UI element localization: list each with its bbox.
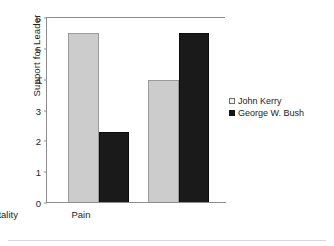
bar-chart-figure: Support for Leader 0 1 2 3 4 5 6 Pain Mo… — [0, 0, 334, 246]
x-axis-line — [46, 202, 226, 203]
y-tick-label-0: 0 — [36, 198, 41, 209]
y-tick-label-3: 3 — [36, 105, 41, 116]
bar-pain-george-w-bush[interactable] — [99, 132, 129, 203]
plot-area: 0 1 2 3 4 5 6 — [46, 17, 225, 203]
legend-label-john-kerry: John Kerry — [238, 96, 282, 106]
bar-group-mortality — [148, 18, 209, 203]
legend-swatch-icon-john-kerry — [229, 98, 235, 104]
legend-label-george-w-bush: George W. Bush — [238, 108, 304, 118]
y-tick-label-6: 6 — [36, 13, 41, 24]
y-tick-label-2: 2 — [36, 136, 41, 147]
legend: John Kerry George W. Bush — [229, 95, 304, 119]
y-tick-label-1: 1 — [36, 167, 41, 178]
legend-item-george-w-bush[interactable]: George W. Bush — [229, 107, 304, 119]
bar-pain-john-kerry[interactable] — [68, 33, 98, 203]
x-tick-label-pain: Pain — [71, 209, 90, 220]
y-tick-label-5: 5 — [36, 43, 41, 54]
bar-group-pain — [68, 18, 129, 203]
legend-swatch-icon-george-w-bush — [229, 110, 235, 116]
x-tick-label-mortality: Mortality — [0, 209, 18, 220]
bar-mortality-george-w-bush[interactable] — [179, 33, 209, 203]
page-divider — [8, 240, 326, 241]
legend-item-john-kerry[interactable]: John Kerry — [229, 95, 304, 107]
y-tick-label-4: 4 — [36, 74, 41, 85]
bar-mortality-john-kerry[interactable] — [148, 80, 178, 203]
